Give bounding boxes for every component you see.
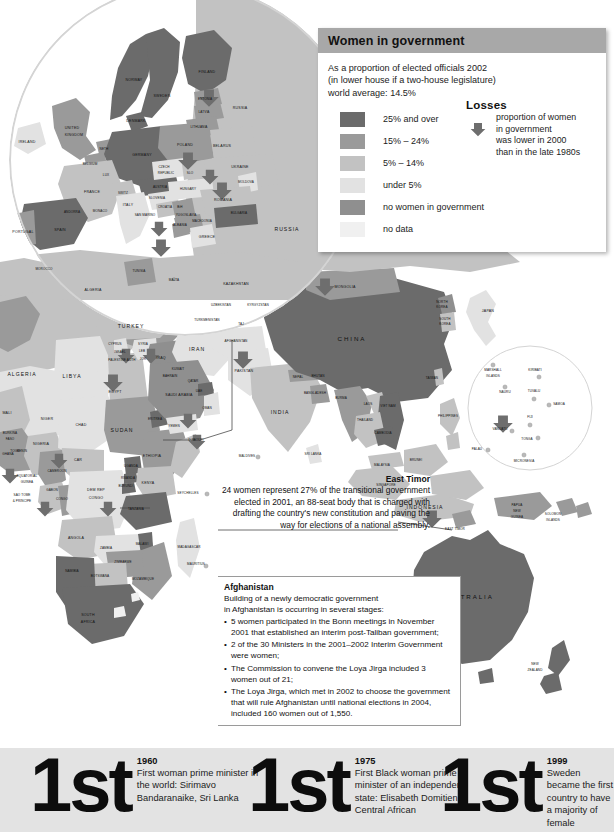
legend-label: 25% and over [383,114,439,124]
world-map: IRELANDUNITEDKINGDOMNORWAYSWEDENFINLANDD… [0,0,614,745]
legend-swatch [340,200,365,215]
first-rank: 1st [248,754,349,816]
losses-title: Losses [466,99,601,111]
legend-swatch [340,134,365,149]
afghanistan-bullet: The Commission to convene the Loya Jirga… [224,663,454,685]
legend-swatch [340,222,365,237]
legend-label: 15% – 24% [383,136,429,146]
legend-label: no women in government [383,202,484,212]
first-text: 1960First woman prime minister in the wo… [137,756,262,804]
legend-intro: As a proportion of elected officials 200… [328,62,596,99]
first-year: 1960 [137,756,262,766]
first-text: 1999Sweden became the first country to h… [547,756,614,832]
legend-row: under 5% [328,174,596,196]
losses-line-2: in government [496,124,601,136]
first-rank: 1st [440,754,541,816]
legend-title: Women in government [328,34,464,48]
afghanistan-bullet: 2 of the 30 Ministers in the 2001–2002 I… [224,639,454,661]
afghanistan-bullet-list: 5 women participated in the Bonn meeting… [224,616,454,719]
afghanistan-intro-2: in Afghanistan is occurring in several s… [224,604,454,615]
legend-label: 5% – 14% [383,158,424,168]
east-timor-body: 24 women represent 27% of the transition… [218,485,430,531]
down-arrow-icon [470,121,486,137]
afghanistan-intro-1: Building of a newly democratic governmen… [224,593,454,604]
legend-swatch [340,156,365,171]
east-timor-callout: East Timor 24 women represent 27% of the… [218,474,430,531]
legend-intro-line-2: (in lower house if a two-house legislatu… [328,74,596,86]
first-fact: 1st1999Sweden became the first country t… [440,748,614,832]
first-year: 1999 [547,756,614,766]
legend-header: Women in government [318,28,606,53]
legend-swatch [340,112,365,127]
afghanistan-title: Afghanistan [224,582,454,592]
legend-row: no data [328,218,596,240]
afghanistan-bullet: The Loya Jirga, which met in 2002 to cho… [224,686,454,719]
legend-row: no women in government [328,196,596,218]
first-description: First woman prime minister in the world:… [137,767,262,804]
legend-swatch [340,178,365,193]
losses-body: proportion of women in government was lo… [496,112,601,158]
losses-line-1: proportion of women [496,112,601,124]
first-rank: 1st [30,754,131,816]
legend-intro-line-1: As a proportion of elected officials 200… [328,62,596,74]
firsts-strip: 1st1960First woman prime minister in the… [0,748,614,832]
losses-line-3: was lower in 2000 [496,135,601,147]
first-description: Sweden became the first country to have … [547,767,614,832]
legend-label: no data [383,224,413,234]
afghanistan-bullet: 5 women participated in the Bonn meeting… [224,616,454,638]
losses-line-4: than in the late 1980s [496,147,601,159]
afghanistan-callout: Afghanistan Building of a newly democrat… [218,576,461,726]
legend-intro-line-3: world average: 14.5% [328,87,596,99]
first-fact: 1st1960First woman prime minister in the… [30,748,262,832]
legend-panel: Women in government As a proportion of e… [318,28,606,252]
east-timor-title: East Timor [218,474,430,484]
legend-label: under 5% [383,180,422,190]
losses-block: Losses proportion of women in government… [466,99,601,158]
legend-body: As a proportion of elected officials 200… [318,53,606,252]
